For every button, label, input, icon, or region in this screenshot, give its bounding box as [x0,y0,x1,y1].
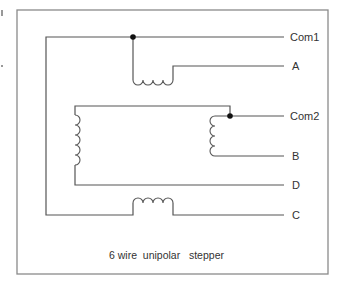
coil-a [133,80,173,85]
coil-d [75,115,80,165]
stepper-wiring-diagram: Com1 A Com2 B D C 6 wire unipolar steppe… [0,0,341,288]
coil-b [210,116,215,156]
terminal-label-c: C [292,209,300,221]
a-wire [173,66,284,80]
com1-circuit [46,34,284,215]
com1-wire [46,37,284,215]
com2-circuit [75,106,284,185]
terminal-label-b: B [292,150,299,162]
terminal-label-d: D [292,179,300,191]
com1-junction [130,34,136,40]
terminal-label-com1: Com1 [290,31,319,43]
terminal-label-a: A [292,60,300,72]
c-wire [173,203,284,215]
terminal-label-com2: Com2 [290,110,319,122]
com2-top-wire [75,106,230,116]
com2-junction [227,113,233,119]
diagram-caption: 6 wire unipolar stepper [109,249,224,261]
d-wire [75,165,284,185]
diagram-frame [17,10,328,274]
coil-c [133,198,173,203]
